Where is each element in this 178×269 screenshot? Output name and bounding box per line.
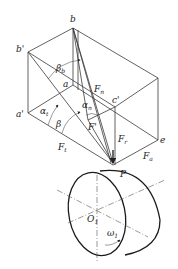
label-O1: O1 — [87, 214, 98, 225]
label-a: a — [63, 79, 68, 89]
label-P: P — [119, 169, 127, 179]
label-e: e — [160, 135, 165, 145]
edge-bprime-b — [28, 28, 73, 52]
label-alpha-t: αt — [40, 106, 49, 117]
label-Fn: Fn — [93, 84, 104, 95]
axis-diagonal-2 — [57, 190, 148, 237]
rotation-arrow-omega — [105, 240, 120, 245]
label-omega1: ω1 — [107, 228, 118, 239]
label-c-prime: c' — [112, 95, 120, 105]
arc-beta — [62, 112, 80, 133]
label-Fa: Fa — [142, 151, 153, 162]
label-b: b — [70, 14, 76, 24]
cylinder-back-edge — [100, 170, 160, 255]
edge-cprime-topright — [115, 78, 158, 107]
axis-diagonal-1 — [68, 180, 165, 223]
gear-force-diagram: b b' a a' c' e P βb β αt αn Fn F' Ft Fr … — [0, 0, 178, 269]
label-F-prime: F' — [87, 122, 97, 132]
line-b-P-2 — [73, 28, 111, 163]
label-b-prime: b' — [16, 44, 24, 54]
arc-alpha-n — [86, 114, 97, 116]
label-Ft: Ft — [57, 142, 67, 153]
labels: b b' a a' c' e P βb β αt αn Fn F' Ft Fr … — [16, 14, 165, 239]
edge-bprime-cprime — [28, 52, 115, 107]
edge-aprime-a — [28, 85, 73, 113]
edge-a-e — [73, 85, 158, 140]
label-alpha-n: αn — [82, 100, 92, 111]
label-beta: β — [55, 119, 61, 129]
force-vectors — [28, 28, 115, 163]
label-Fr: Fr — [117, 134, 128, 145]
label-a-prime: a' — [16, 109, 24, 119]
gear-cylinder — [57, 167, 165, 262]
